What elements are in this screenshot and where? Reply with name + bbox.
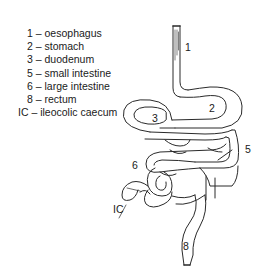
digestive-tract-diagram [0, 0, 263, 275]
rectum-shape [172, 195, 206, 265]
label-rectum: 8 [183, 241, 189, 252]
stomach-shape [172, 87, 242, 128]
label-oesophagus: 1 [185, 42, 191, 53]
label-duodenum: 3 [152, 113, 158, 124]
label-small-intestine: 5 [245, 144, 251, 155]
label-large-intestine: 6 [132, 160, 138, 171]
oesophagus-shape [173, 26, 188, 97]
large-intestine-shape [122, 168, 172, 207]
leader-line-large-intestine [127, 188, 140, 191]
label-stomach: 2 [209, 103, 215, 114]
label-caecum: IC [113, 204, 124, 215]
